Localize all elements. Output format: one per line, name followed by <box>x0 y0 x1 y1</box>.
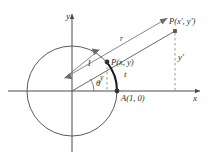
y-axis-arrowhead <box>70 14 75 19</box>
dimension-r-radius <box>65 18 168 78</box>
unit-circle-figure: y x P(x', y') P(x, y) A(1, 0) 1 r t θ y … <box>0 0 214 164</box>
dimension-r-line <box>65 18 168 78</box>
point-marker-a <box>115 89 120 94</box>
x-axis-label: x <box>193 94 197 103</box>
arc-label-t: t <box>124 70 127 79</box>
point-marker-p-prime <box>173 29 177 33</box>
axes-group <box>8 14 200 152</box>
point-marker-p-circle <box>105 60 110 65</box>
point-label-p: P(x, y) <box>111 58 134 67</box>
y-axis-label: y <box>66 12 70 21</box>
dimension-r-arrow-end <box>160 18 168 25</box>
segment-label-y-prime: y′ <box>178 53 184 62</box>
point-label-p-prime: P(x', y') <box>169 17 195 26</box>
measure-label-r: r <box>120 35 123 43</box>
point-label-a: A(1, 0) <box>121 94 145 103</box>
segment-label-y: y <box>100 74 103 82</box>
angle-arc-theta <box>90 79 94 91</box>
measure-label-unit: 1 <box>87 59 92 68</box>
